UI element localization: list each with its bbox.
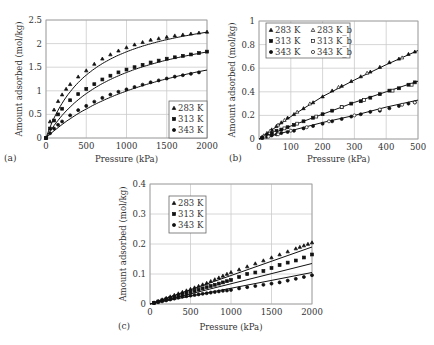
triangle-marker-icon (270, 256, 273, 259)
legend-entry-label: 343 K (275, 47, 301, 57)
y-tick-label: 1 (250, 16, 255, 26)
square-marker-icon (238, 276, 241, 279)
triangle-marker-icon (213, 278, 216, 281)
circle-marker-icon (229, 288, 232, 291)
fit-lines (259, 51, 418, 140)
square-marker-icon (388, 89, 391, 92)
circle-marker-icon (197, 71, 200, 74)
circle-marker-icon (57, 123, 60, 126)
legend-entry-label: 283 K (178, 198, 204, 208)
square-marker-icon (293, 123, 296, 126)
square-marker-icon (410, 83, 413, 86)
circle-marker-icon (189, 72, 192, 75)
triangle-marker-icon (60, 93, 63, 96)
y-tick-label: 2.5 (28, 15, 42, 25)
square-marker-icon (315, 115, 318, 118)
triangle-marker-icon (209, 280, 212, 283)
triangle-marker-icon (225, 272, 228, 275)
square-marker-icon (369, 96, 372, 99)
triangle-marker-icon (165, 35, 168, 38)
figure: 050010001500200000.511.522.5Pressure (kP… (0, 0, 434, 345)
circle-marker-icon (61, 120, 64, 123)
circle-marker-icon (169, 298, 172, 301)
triangle-marker-icon (189, 32, 192, 35)
triangle-marker-icon (217, 276, 220, 279)
triangle-marker-icon (205, 281, 208, 284)
square-marker-icon (198, 52, 201, 55)
circle-marker-icon (149, 81, 152, 84)
circle-marker-icon (246, 286, 249, 289)
triangle-marker-icon (185, 289, 188, 292)
legend-entry-label: 313 K (178, 114, 204, 124)
triangle-marker-icon (306, 242, 309, 245)
square-marker-icon (413, 81, 416, 84)
circle-marker-icon (269, 50, 272, 53)
legend: 283 K313 K343 K (169, 196, 206, 233)
circle-marker-icon (177, 296, 180, 299)
triangle-marker-icon (149, 38, 152, 41)
square-marker-icon (149, 61, 152, 64)
square-marker-icon (286, 261, 289, 264)
circle-marker-icon (117, 90, 120, 93)
x-tick-label: 300 (346, 142, 362, 152)
square-marker-icon (181, 54, 184, 57)
x-tick-label: 1500 (156, 141, 178, 151)
x-tick-label: 1500 (261, 307, 283, 317)
triangle-marker-icon (302, 107, 305, 110)
circle-marker-icon (93, 100, 96, 103)
square-marker-icon (141, 63, 144, 66)
triangle-marker-icon (117, 49, 120, 52)
square-marker-icon (280, 128, 283, 131)
triangle-marker-icon (311, 101, 314, 104)
triangle-marker-icon (254, 262, 257, 265)
circle-marker-icon (181, 295, 184, 298)
circle-marker-icon (270, 282, 273, 285)
fit-line (259, 51, 418, 140)
square-marker-icon (397, 87, 400, 90)
circle-marker-icon (173, 75, 176, 78)
circle-marker-icon (225, 289, 228, 292)
x-tick-label: 500 (410, 142, 426, 152)
y-tick-label: 0.3 (132, 209, 146, 219)
circle-marker-icon (189, 294, 192, 297)
triangle-marker-icon (197, 284, 200, 287)
triangle-marker-icon (283, 118, 286, 121)
chart-panel-a: 050010001500200000.511.522.5Pressure (kP… (4, 15, 218, 164)
y-tick-label: 0 (250, 134, 255, 144)
triangle-marker-icon (286, 116, 289, 119)
triangle-marker-icon (221, 274, 224, 277)
triangle-marker-icon (295, 110, 298, 113)
y-tick-label: 0.8 (241, 40, 255, 50)
triangle-marker-icon (157, 37, 160, 40)
circle-marker-icon (312, 124, 315, 127)
triangle-marker-icon (400, 56, 403, 59)
y-tick-label: 0.5 (28, 109, 42, 119)
data-series (153, 253, 314, 304)
square-marker-icon (213, 283, 216, 286)
circle-marker-icon (161, 300, 164, 303)
triangle-marker-icon (378, 65, 381, 68)
circle-marker-icon (181, 74, 184, 77)
square-marker-icon (201, 287, 204, 290)
circle-marker-icon (413, 101, 416, 104)
circle-marker-icon (165, 299, 168, 302)
circle-marker-icon (277, 133, 280, 136)
square-marker-icon (57, 113, 60, 116)
circle-marker-icon (133, 85, 136, 88)
x-tick-label: 100 (283, 142, 299, 152)
circle-marker-icon (388, 107, 391, 110)
x-tick-label: 0 (147, 307, 152, 317)
triangle-marker-icon (77, 75, 80, 78)
circle-marker-icon (270, 134, 273, 137)
triangle-marker-icon (237, 268, 240, 271)
triangle-marker-icon (205, 30, 208, 33)
legend-entry-label: 343 K_b (317, 47, 353, 58)
circle-marker-icon (125, 88, 128, 91)
circle-marker-icon (172, 128, 175, 131)
y-axis-label: Amount adsorbed (mol/kg) (14, 21, 24, 137)
circle-marker-icon (359, 113, 362, 116)
square-marker-icon (283, 127, 286, 130)
triangle-marker-icon (68, 82, 71, 85)
triangle-marker-icon (246, 265, 249, 268)
square-marker-icon (61, 107, 64, 110)
